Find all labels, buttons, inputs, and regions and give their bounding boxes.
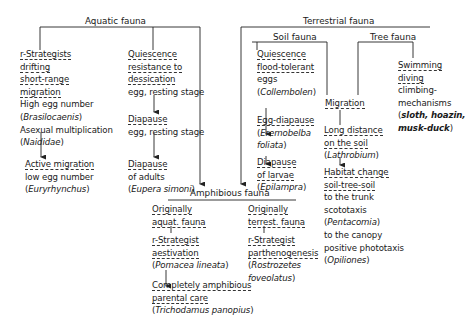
label: migration (20, 87, 61, 98)
label: soil-tree-soil (324, 180, 375, 191)
label: Habitat change (324, 167, 389, 178)
node-migration: Migration (325, 97, 365, 110)
label: r-Strategist (248, 235, 295, 246)
species-name: foliata (257, 140, 283, 150)
paren: ) (250, 305, 253, 315)
label: Diapause (128, 159, 167, 170)
header-soil-fauna: Soil fauna (273, 32, 317, 42)
label: parthenogenesis (248, 248, 318, 259)
label: of larvae (257, 170, 294, 181)
species-name: Pomacea lineata (155, 260, 225, 270)
paren: ) (283, 140, 286, 150)
species-name: Lathrobium (327, 150, 375, 160)
node-active-migration: Active migration low egg number (Euryrhy… (25, 158, 94, 196)
label: egg, resting stage (128, 127, 204, 137)
label: scototaxis (324, 205, 367, 215)
species-name: Eupera simoni (131, 184, 191, 194)
paren: ) (366, 255, 369, 265)
label: low egg number (25, 172, 93, 182)
label: mechanisms (398, 98, 451, 108)
label: Migration (325, 98, 365, 109)
label: Originally (248, 204, 288, 215)
label: egg, resting stage (128, 87, 204, 97)
label: Swimming (398, 60, 442, 71)
node-amphibious-terrest-strategy: r-Strategist parthenogenesis (Rostrozete… (248, 234, 318, 284)
label: to the trunk (324, 192, 374, 202)
node-soil-quiescence: Quiescence flood-tolerant eggs (Collembo… (257, 48, 316, 98)
node-diapause-egg: Diapause egg, resting stage (128, 113, 204, 138)
label: r-Strategist (152, 235, 199, 246)
label: flood-tolerant (257, 62, 314, 73)
label: eggs (257, 74, 277, 84)
species-name: Pentacomia (327, 217, 377, 227)
node-diapause-adults: Diapause of adults (Eupera simoni) (128, 158, 195, 196)
label: on the soil (324, 138, 368, 149)
paren: ) (86, 184, 89, 194)
label: positive phototaxis (324, 243, 404, 253)
node-amphibious-aquat-strategy: r-Strategist aestivation (Pomacea lineat… (152, 234, 229, 272)
label: dessication (128, 74, 175, 85)
label: aquat. fauna (152, 217, 206, 228)
label: Active migration (25, 159, 94, 170)
node-egg-diapause: Egg-diapause (Eremobelba foliata) (257, 114, 314, 152)
paren: ) (292, 273, 295, 283)
label: r-Strategists (20, 49, 71, 60)
paren: ) (313, 87, 316, 97)
node-aquatic-quiescence: Quiescence resistance to dessication egg… (128, 48, 204, 98)
label: Asexual multiplication (20, 125, 113, 135)
species-name: Eremobelba (260, 128, 311, 138)
label: High egg number (20, 99, 93, 109)
paren: ) (377, 217, 380, 227)
paren: ) (225, 260, 228, 270)
paren: ) (376, 150, 379, 160)
label: Egg-diapause (257, 115, 314, 126)
paren: ) (79, 112, 82, 122)
node-amphibious-terrest: Originally terrest. fauna (248, 203, 305, 228)
label: Diapause (128, 114, 167, 125)
label: terrest. fauna (248, 217, 305, 228)
label: climbing- (398, 85, 437, 95)
node-aquatic-r-strategists: r-Strategists drifting short-range migra… (20, 48, 113, 149)
species-name: Epilampra (260, 182, 303, 192)
node-amphibious-aquat: Originally aquat. fauna (152, 203, 206, 228)
label: diving (398, 73, 424, 84)
label: Diapause (257, 157, 296, 168)
paren: ) (303, 182, 306, 192)
label: resistance to (128, 62, 182, 73)
label: Originally (152, 204, 192, 215)
species-name: Trichodamus panopius (155, 305, 250, 315)
species-name: foveolatus (248, 273, 292, 283)
node-completely-amphibious: Completely amphibious parental care (Tri… (152, 279, 253, 317)
paren: ) (60, 137, 63, 147)
species-name: Naididae (23, 137, 60, 147)
label: Quiescence (128, 49, 177, 60)
species-name: Opiliones (327, 255, 366, 265)
label: Completely amphibious (152, 280, 251, 291)
species-name: Collembolen (260, 87, 312, 97)
node-diapause-larvae: Diapause of larvae (Epilampra) (257, 156, 306, 194)
header-aquatic-fauna: Aquatic fauna (85, 16, 146, 26)
species-name: sloth, hoazin, (401, 110, 465, 120)
header-tree-fauna: Tree fauna (370, 32, 416, 42)
label: aestivation (152, 248, 199, 259)
species-name: Brasilocaenis (23, 112, 79, 122)
node-tree-swimming: Swimming diving climbing- mechanisms (sl… (398, 59, 465, 135)
node-long-distance: Long distance on the soil (Lathrobium) (324, 124, 383, 162)
species-name: musk-duck (398, 123, 450, 133)
label: drifting (20, 62, 50, 73)
label: to the canopy (324, 230, 382, 240)
node-habitat-change: Habitat change soil-tree-soil to the tru… (324, 166, 404, 267)
paren: ) (450, 123, 453, 133)
header-terrestrial-fauna: Terrestrial fauna (303, 16, 374, 26)
label: Quiescence (257, 49, 306, 60)
label: short-range (20, 74, 69, 85)
label: Long distance (324, 125, 383, 136)
label: parental care (152, 293, 208, 304)
paren: ) (191, 184, 194, 194)
label: of adults (128, 172, 165, 182)
species-name: Rostrozetes (251, 260, 301, 270)
species-name: Euryrhynchus (28, 184, 86, 194)
